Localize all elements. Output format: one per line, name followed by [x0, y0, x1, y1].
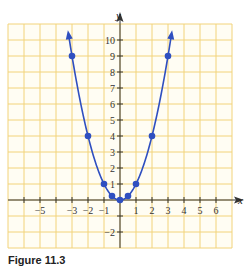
- data-point: [165, 53, 172, 60]
- data-point: [69, 53, 76, 60]
- x-tick-label: 6: [214, 205, 219, 216]
- data-point: [133, 181, 140, 188]
- y-tick-label: 3: [110, 147, 115, 158]
- y-tick-label: 1: [110, 179, 115, 190]
- x-tick-label: 5: [198, 205, 203, 216]
- y-tick-label: 2: [110, 163, 115, 174]
- x-tick-label: −5: [35, 205, 46, 216]
- y-tick-label: 10: [105, 35, 115, 46]
- data-point: [125, 193, 132, 200]
- y-tick-label: 8: [110, 67, 115, 78]
- x-tick-label: 1: [134, 205, 139, 216]
- data-point: [101, 181, 108, 188]
- data-point: [109, 193, 116, 200]
- x-tick-label: −1: [99, 205, 110, 216]
- y-tick-label: 6: [110, 99, 115, 110]
- x-axis-label: x: [237, 194, 243, 206]
- y-tick-label: −2: [104, 227, 115, 238]
- data-point: [85, 133, 92, 140]
- y-tick-label: 5: [110, 115, 115, 126]
- x-tick-label: 3: [166, 205, 171, 216]
- y-axis-label: y: [115, 9, 121, 21]
- y-tick-label: 4: [110, 131, 115, 142]
- x-tick-label: −3: [67, 205, 78, 216]
- figure-caption: Figure 11.3: [8, 254, 65, 266]
- x-tick-label: 2: [150, 205, 155, 216]
- data-point: [149, 133, 156, 140]
- x-tick-label: 4: [182, 205, 187, 216]
- x-tick-label: −2: [83, 205, 94, 216]
- data-point: [117, 197, 124, 204]
- y-tick-label: 9: [110, 51, 115, 62]
- y-tick-label: 7: [110, 83, 115, 94]
